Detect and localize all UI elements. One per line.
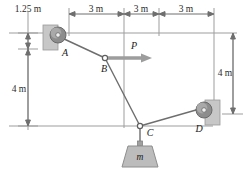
pulley-assembly-d <box>196 100 220 125</box>
left-dimension-chain <box>26 33 31 126</box>
cable-segment-AB <box>62 38 105 58</box>
point-label-c: C <box>147 127 154 138</box>
dim-label-right: 4 m <box>218 68 233 78</box>
dim-arrow-left-2-bottom <box>26 120 31 126</box>
point-label-a: A <box>61 47 69 58</box>
mass-hanger-lug <box>138 141 143 146</box>
figure-canvas: 3 m 3 m 3 m 1.25 m 4 m 4 m <box>0 0 246 172</box>
dim-label-top-1: 3 m <box>89 4 104 14</box>
dim-arrow-top-1-left <box>69 12 75 17</box>
cables <box>55 35 203 143</box>
dim-label-left-top: 1.25 m <box>15 4 42 14</box>
node-b <box>102 55 107 60</box>
point-label-d: D <box>194 123 203 134</box>
cable-segment-CD <box>140 110 196 126</box>
dim-arrow-top-3-right <box>208 12 214 17</box>
point-label-b: B <box>101 63 107 74</box>
node-c <box>137 123 142 128</box>
statics-figure: 3 m 3 m 3 m 1.25 m 4 m 4 m <box>0 0 246 172</box>
force-label-p: P <box>130 40 137 51</box>
mass-label: m <box>137 152 144 162</box>
dim-arrow-right-bottom <box>231 108 236 114</box>
dim-label-top-2: 3 m <box>134 4 149 14</box>
dim-arrow-left-2-top <box>26 49 31 55</box>
pulley-a-axle <box>56 33 61 38</box>
force-arrow-p <box>108 53 152 62</box>
dim-label-left-bottom: 4 m <box>12 84 27 94</box>
dim-arrow-left-1-top <box>26 33 31 39</box>
dim-label-top-3: 3 m <box>179 4 194 14</box>
force-arrow-p-head <box>141 53 152 62</box>
dim-arrow-top-2-left <box>124 12 130 17</box>
dim-arrow-top-3-left <box>159 12 165 17</box>
cable-segment-BC <box>105 58 140 126</box>
pulley-d-axle <box>202 108 207 113</box>
dim-arrow-right-top <box>231 33 236 39</box>
